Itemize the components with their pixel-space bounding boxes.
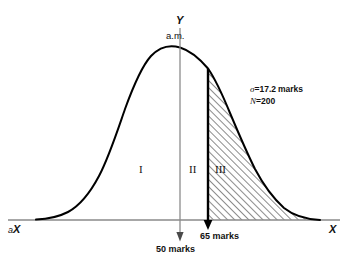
- mean-vertical-line: [176, 48, 183, 242]
- cutoff-marker-label: 65 marks: [200, 232, 239, 241]
- y-axis-label: Y: [176, 15, 183, 26]
- n-value: 200: [261, 96, 275, 106]
- n-line: N=200: [250, 97, 303, 106]
- statistics-annotation: σ=17.2marks N=200: [250, 85, 303, 106]
- mean-marker-label: 50 marks: [156, 245, 195, 254]
- x-axis-left-label: aX: [8, 224, 20, 235]
- sigma-unit: marks: [278, 84, 303, 94]
- x-axis-left-symbol: X: [13, 223, 20, 235]
- region-label-II: II: [189, 164, 196, 175]
- x-axis-label: X: [329, 224, 336, 235]
- region-label-I: I: [139, 164, 143, 175]
- peak-label-am: a.m.: [166, 31, 184, 41]
- region-label-III: III: [215, 164, 226, 175]
- distribution-curve: [36, 46, 320, 220]
- sigma-value: 17.2: [259, 84, 276, 94]
- sigma-line: σ=17.2marks: [250, 85, 303, 94]
